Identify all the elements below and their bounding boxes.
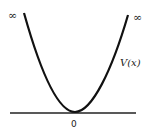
potential-diagram: ∞ ∞ V(x) 0 (0, 0, 148, 133)
origin-label: 0 (71, 119, 77, 129)
potential-svg: ∞ ∞ V(x) 0 (0, 0, 148, 133)
right-infinity-label: ∞ (133, 11, 142, 24)
potential-curve (24, 13, 128, 112)
curve-label: V(x) (120, 57, 141, 68)
left-infinity-label: ∞ (8, 9, 17, 22)
